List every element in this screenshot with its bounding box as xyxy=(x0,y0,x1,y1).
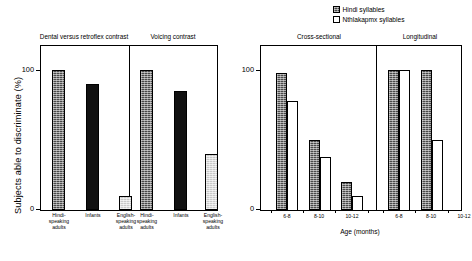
legend-swatch-open-icon xyxy=(333,16,340,23)
x-cat-label-long-10-12: 10-12 xyxy=(449,213,472,219)
bar-cross-6-8-nthlakapmx xyxy=(287,101,298,210)
bar-long-8-10-nthlakapmx xyxy=(432,140,443,210)
x-cat-label-long-8-10: 8-10 xyxy=(416,213,446,219)
y-tick-0-left: 0 xyxy=(17,204,34,213)
cat-label-dental-infants: Infants xyxy=(76,212,110,218)
x-cat-label-long-6-8: 6-8 xyxy=(384,213,414,219)
legend-label-nthlakapmx: Nthlakapmx syllables xyxy=(343,15,405,24)
bar-voicing-infants xyxy=(174,91,187,210)
panel-title-dental-retroflex: Dental versus retroflex contrast xyxy=(36,33,132,40)
right-frame-right xyxy=(461,45,462,211)
y-axis-label-left: Subjects able to discriminate (%) xyxy=(13,77,23,214)
bar-cross-6-8-hindi xyxy=(276,73,287,210)
bar-cross-10-12-nthlakapmx xyxy=(352,196,363,210)
cat-label-voicing-hindi-adults: Hindi- speaking adults xyxy=(130,212,164,230)
cat-label-voicing-infants: Infants xyxy=(164,212,198,218)
x-cat-label-cross-6-8: 6-8 xyxy=(272,213,302,219)
bar-voicing-hindi-adults xyxy=(140,70,153,210)
x-tick-mark-3 xyxy=(368,210,369,213)
cat-label-voicing-english-adults: English- speaking adults xyxy=(196,212,230,230)
x-cat-label-cross-8-10: 8-10 xyxy=(304,213,334,219)
x-axis-title-right: Age (months) xyxy=(315,228,405,235)
panel-divider-right xyxy=(376,45,377,211)
y-axis-line-right xyxy=(260,45,261,211)
y-tick-100-right: 100 xyxy=(237,65,254,74)
panel-title-cross-sectional: Cross-sectional xyxy=(273,33,365,40)
y-tick-100-left: 100 xyxy=(17,65,34,74)
figure-canvas: Subjects able to discriminate (%) 100 0 … xyxy=(0,0,472,261)
y-tick-0-right: 0 xyxy=(237,204,254,213)
bar-dental-hindi-adults xyxy=(52,70,65,210)
bar-dental-infants xyxy=(86,84,99,210)
panel-title-longitudinal: Longitudinal xyxy=(375,33,465,40)
legend-label-hindi: Hindi syllables xyxy=(343,5,385,14)
panel-title-voicing: Voicing contrast xyxy=(128,33,218,40)
bar-cross-8-10-hindi xyxy=(309,140,320,210)
x-cat-label-cross-10-12: 10-12 xyxy=(337,213,367,219)
bar-long-8-10-hindi xyxy=(421,70,432,210)
panel-divider-left xyxy=(129,45,130,211)
bar-voicing-english-adults xyxy=(205,154,218,210)
bar-long-6-8-hindi xyxy=(388,70,399,210)
y-axis-line-left xyxy=(40,45,41,211)
x-tick-mark-2 xyxy=(335,210,336,213)
bar-cross-10-12-hindi xyxy=(341,182,352,210)
legend-swatch-hatched-icon xyxy=(333,6,340,13)
bar-cross-8-10-nthlakapmx xyxy=(320,157,331,210)
bar-dental-english-adults xyxy=(119,196,132,210)
top-frame-right xyxy=(260,45,462,46)
cat-label-dental-hindi-adults: Hindi- speaking adults xyxy=(42,212,76,230)
bar-long-6-8-nthlakapmx xyxy=(399,70,410,210)
